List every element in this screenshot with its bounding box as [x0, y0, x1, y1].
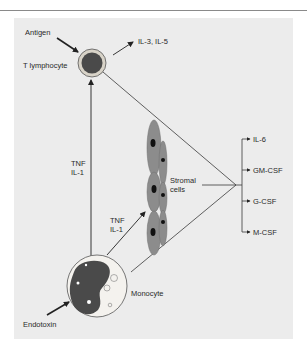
convergence-lines	[103, 72, 236, 272]
output-il6: IL-6	[253, 135, 266, 144]
monocyte-label: Monocyte	[131, 289, 164, 298]
stromal-cells	[147, 120, 167, 255]
tnf-label-1: TNF	[71, 159, 86, 168]
il1-label-1: IL-1	[71, 168, 84, 177]
antigen-label: Antigen	[25, 28, 50, 37]
il3-il5-arrow	[113, 42, 133, 55]
stromal-label-line1: Stromal	[170, 176, 196, 185]
antigen-arrow	[57, 38, 78, 52]
cytokine-network-diagram	[0, 0, 307, 352]
t-lymphocyte-label: T lymphocyte	[23, 61, 67, 70]
tnf-label-2: TNF	[110, 216, 125, 225]
stromal-label-line2: cells	[170, 185, 185, 194]
endotoxin-label: Endotoxin	[23, 320, 56, 329]
output-bracket	[236, 139, 250, 232]
output-g-csf: G-CSF	[253, 197, 276, 206]
il1-label-2: IL-1	[110, 225, 123, 234]
t-lymphocyte-cell	[78, 49, 106, 77]
endotoxin-arrow	[47, 302, 69, 315]
monocyte-cell	[67, 255, 127, 317]
output-gm-csf: GM-CSF	[253, 166, 283, 175]
output-m-csf: M-CSF	[253, 228, 277, 237]
il3-il5-label: IL-3, IL-5	[138, 37, 168, 46]
